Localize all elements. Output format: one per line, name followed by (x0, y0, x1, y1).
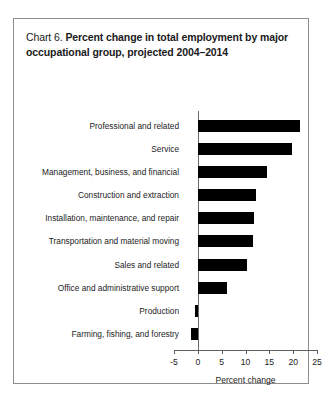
x-axis-tick (174, 350, 175, 354)
bar (198, 212, 254, 224)
bar-row (14, 323, 310, 346)
x-axis-tick-label: 15 (265, 357, 275, 367)
bar (198, 235, 253, 247)
chart-title: Chart 6. Percent change in total employm… (26, 30, 298, 59)
plot-area: Professional and relatedServiceManagemen… (14, 93, 310, 383)
x-axis-tick-label: 10 (241, 357, 251, 367)
bar-row (14, 161, 310, 184)
x-axis-tick-label: 5 (219, 357, 224, 367)
x-axis-tick (246, 350, 247, 354)
x-axis-tick (198, 350, 199, 354)
chart-panel: Chart 6. Percent change in total employm… (13, 18, 309, 384)
bar (198, 189, 257, 201)
x-axis-tick-label: 20 (288, 357, 298, 367)
bar-series (14, 115, 310, 346)
bar-row (14, 138, 310, 161)
x-axis-tick (222, 350, 223, 354)
x-axis-tick (293, 350, 294, 354)
bar (191, 328, 198, 340)
bar-row (14, 230, 310, 253)
chart-title-line1: Percent change in total employment by (65, 31, 257, 43)
bar-row (14, 300, 310, 323)
bar (198, 259, 247, 271)
bar (198, 166, 268, 178)
bar (195, 305, 198, 317)
bar-row (14, 115, 310, 138)
bar-row (14, 277, 310, 300)
bar (198, 282, 228, 294)
x-axis-tick-label: -5 (170, 357, 178, 367)
x-axis-tick-label: 0 (195, 357, 200, 367)
bar-row (14, 254, 310, 277)
bar (198, 120, 300, 132)
x-axis-tick (317, 350, 318, 354)
bar (198, 143, 292, 155)
bar-row (14, 207, 310, 230)
bar-row (14, 184, 310, 207)
x-axis-tick-label: 25 (312, 357, 322, 367)
x-axis-title: Percent change (215, 375, 275, 385)
chart-number: Chart 6. (26, 31, 63, 43)
x-axis-tick (269, 350, 270, 354)
